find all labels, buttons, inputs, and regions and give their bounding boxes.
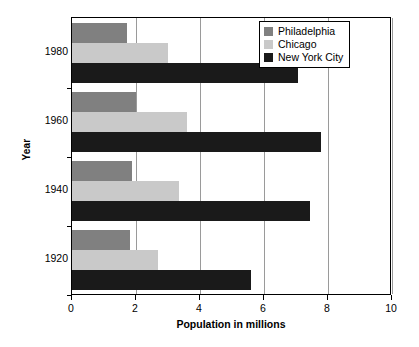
legend-item: Chicago xyxy=(264,38,343,51)
y-axis-tick-label: 1940 xyxy=(32,184,68,195)
y-axis-tick xyxy=(67,226,72,227)
legend-item: New York City xyxy=(264,51,343,64)
gridline xyxy=(392,18,393,294)
x-axis-tick xyxy=(391,295,392,300)
x-axis-tick-label: 2 xyxy=(115,302,155,314)
x-axis-tick-label: 8 xyxy=(307,302,347,314)
bar xyxy=(72,161,132,181)
bar-chart: Year 1980196019401920 0246810 Population… xyxy=(0,0,419,347)
x-axis-tick xyxy=(263,295,264,300)
x-axis-tick-label: 0 xyxy=(51,302,91,314)
y-axis-tick xyxy=(67,88,72,89)
y-axis-tick xyxy=(67,157,72,158)
legend-item-label: New York City xyxy=(278,52,343,63)
x-axis-tick xyxy=(199,295,200,300)
bar xyxy=(72,132,321,152)
x-axis-tick-label: 10 xyxy=(371,302,411,314)
bar xyxy=(72,112,187,132)
legend-swatch-icon xyxy=(264,27,273,36)
bar xyxy=(72,270,251,290)
bar xyxy=(72,23,127,43)
y-axis-tick-label: 1980 xyxy=(32,46,68,57)
gridline xyxy=(200,18,201,294)
bar xyxy=(72,92,136,112)
x-axis-tick-label: 4 xyxy=(179,302,219,314)
x-axis-title: Population in millions xyxy=(71,318,391,330)
x-axis-tick xyxy=(71,295,72,300)
bar xyxy=(72,181,179,201)
legend-item-label: Philadelphia xyxy=(278,26,335,37)
y-axis-tick-label: 1960 xyxy=(32,115,68,126)
bar xyxy=(72,230,130,250)
legend-swatch-icon xyxy=(264,40,273,49)
legend-item: Philadelphia xyxy=(264,25,343,38)
x-axis-tick xyxy=(135,295,136,300)
x-axis-tick xyxy=(327,295,328,300)
y-axis-tick-label: 1920 xyxy=(32,253,68,264)
legend-swatch-icon xyxy=(264,53,273,62)
x-axis-tick-label: 6 xyxy=(243,302,283,314)
bar xyxy=(72,250,158,270)
bar xyxy=(72,43,168,63)
bar xyxy=(72,201,310,221)
y-axis-tick-labels: 1980196019401920 xyxy=(26,0,68,347)
chart-legend: PhiladelphiaChicagoNew York City xyxy=(259,21,350,68)
legend-item-label: Chicago xyxy=(278,39,317,50)
